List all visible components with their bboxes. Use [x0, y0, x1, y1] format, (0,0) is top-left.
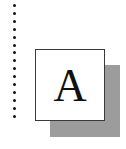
- bullet-dot: [13, 115, 16, 118]
- bullet-dot: [13, 67, 16, 70]
- bullet-dot: [13, 36, 16, 39]
- bullet-dot: [13, 28, 16, 31]
- bullet-dot: [13, 44, 16, 47]
- bullet-dot: [13, 20, 16, 23]
- bullet-dot: [13, 83, 16, 86]
- dotted-vertical-rule: [13, 4, 17, 120]
- bullet-dot: [13, 91, 16, 94]
- chapter-letter-tile: A: [35, 49, 105, 121]
- bullet-dot: [13, 75, 16, 78]
- bullet-dot: [13, 99, 16, 102]
- bullet-dot: [13, 4, 16, 7]
- chapter-letter: A: [36, 50, 104, 120]
- bullet-dot: [13, 107, 16, 110]
- bullet-dot: [13, 12, 16, 15]
- bullet-dot: [13, 51, 16, 54]
- bullet-dot: [13, 59, 16, 62]
